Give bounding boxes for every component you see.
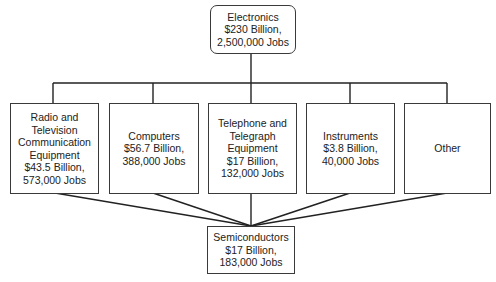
node-value: $3.8 Billion,	[323, 142, 377, 155]
node-label: Equipment	[29, 149, 79, 162]
node-label: Radio and	[31, 111, 79, 124]
node-label: Instruments	[323, 130, 378, 143]
node-label: Electronics	[227, 11, 278, 24]
node-jobs: 132,000 Jobs	[221, 167, 284, 180]
node-jobs: 388,000 Jobs	[122, 155, 185, 168]
node-value: $56.7 Billion,	[124, 142, 184, 155]
node-semiconductors: Semiconductors $17 Billion, 183,000 Jobs	[207, 226, 295, 274]
node-computers: Computers $56.7 Billion, 388,000 Jobs	[109, 103, 199, 194]
node-value: $17 Billion,	[225, 244, 276, 257]
node-electronics: Electronics $230 Billion, 2,500,000 Jobs	[210, 5, 296, 54]
node-jobs: 2,500,000 Jobs	[217, 36, 289, 49]
node-jobs: 573,000 Jobs	[23, 174, 86, 187]
node-jobs: 183,000 Jobs	[219, 256, 282, 269]
node-label: Telephone and	[218, 117, 287, 130]
node-label: Semiconductors	[213, 231, 288, 244]
node-label: Television	[31, 124, 77, 137]
node-value: $17 Billion,	[227, 155, 278, 168]
node-label: Telegraph	[229, 130, 275, 143]
node-jobs: 40,000 Jobs	[322, 155, 379, 168]
node-label: Computers	[128, 130, 179, 143]
node-value: $43.5 Billion,	[24, 161, 84, 174]
node-label: Equipment	[227, 142, 277, 155]
node-label: Other	[434, 142, 460, 155]
node-radio-tv-communication: Radio and Television Communication Equip…	[10, 103, 99, 194]
node-value: $230 Billion,	[224, 23, 281, 36]
node-label: Communication	[18, 136, 91, 149]
node-telephone-telegraph: Telephone and Telegraph Equipment $17 Bi…	[208, 103, 297, 194]
node-other: Other	[404, 103, 491, 194]
node-instruments: Instruments $3.8 Billion, 40,000 Jobs	[306, 103, 395, 194]
